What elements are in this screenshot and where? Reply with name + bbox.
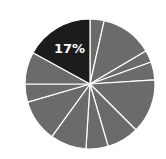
pie-chart: 17% bbox=[0, 0, 166, 159]
pie-labels: 17% bbox=[54, 41, 85, 56]
pie-slices bbox=[25, 19, 155, 149]
pie-slice-label: 17% bbox=[54, 41, 85, 56]
